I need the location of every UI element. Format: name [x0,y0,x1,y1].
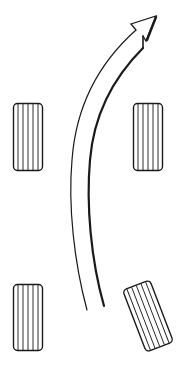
tire-front-right-icon [134,104,163,171]
tire-front-left-icon [14,104,43,171]
tire-rear-right-icon [123,280,174,352]
tire-turn-diagram [0,0,193,369]
tire-rear-left-icon [14,285,43,351]
